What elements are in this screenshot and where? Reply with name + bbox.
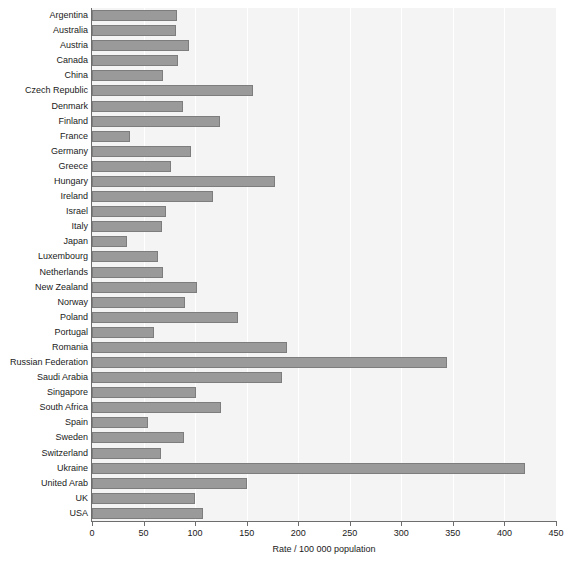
y-axis-tick-label: Argentina bbox=[0, 8, 88, 23]
gridline bbox=[556, 8, 557, 521]
bar-row bbox=[92, 415, 556, 430]
x-axis-tick bbox=[247, 521, 248, 526]
y-axis-tick-label: Switzerland bbox=[0, 446, 88, 461]
bar[interactable] bbox=[92, 10, 177, 21]
x-axis-tick-label: 450 bbox=[548, 528, 563, 538]
bar[interactable] bbox=[92, 116, 220, 127]
bar[interactable] bbox=[92, 161, 171, 172]
y-axis-tick-label: Italy bbox=[0, 219, 88, 234]
y-axis-tick-label: Poland bbox=[0, 310, 88, 325]
y-axis-tick-label: Norway bbox=[0, 295, 88, 310]
bar[interactable] bbox=[92, 432, 184, 443]
bar[interactable] bbox=[92, 70, 163, 81]
x-axis-tick-label: 0 bbox=[89, 528, 94, 538]
bar[interactable] bbox=[92, 478, 247, 489]
bar-row bbox=[92, 461, 556, 476]
bar[interactable] bbox=[92, 236, 127, 247]
x-axis-tick bbox=[144, 521, 145, 526]
x-axis-tick bbox=[556, 521, 557, 526]
bar-row bbox=[92, 491, 556, 506]
y-axis-tick-label: New Zealand bbox=[0, 280, 88, 295]
y-axis-tick-label: Spain bbox=[0, 415, 88, 430]
y-axis-tick-label: Portugal bbox=[0, 325, 88, 340]
y-axis-tick-label: Czech Republic bbox=[0, 83, 88, 98]
bar-row bbox=[92, 159, 556, 174]
bar[interactable] bbox=[92, 282, 197, 293]
bar-row bbox=[92, 144, 556, 159]
bar[interactable] bbox=[92, 176, 275, 187]
bar-row bbox=[92, 38, 556, 53]
y-axis-tick-label: Israel bbox=[0, 204, 88, 219]
bar[interactable] bbox=[92, 221, 162, 232]
x-axis-tick-label: 250 bbox=[342, 528, 357, 538]
bar[interactable] bbox=[92, 131, 130, 142]
y-axis-tick-label: Russian Federation bbox=[0, 355, 88, 370]
bar-row bbox=[92, 385, 556, 400]
bar[interactable] bbox=[92, 85, 253, 96]
bar-row bbox=[92, 370, 556, 385]
y-axis-tick-label: France bbox=[0, 129, 88, 144]
y-axis-tick-label: Japan bbox=[0, 234, 88, 249]
x-axis-tick bbox=[92, 521, 93, 526]
bar-row bbox=[92, 174, 556, 189]
bar[interactable] bbox=[92, 327, 154, 338]
bar[interactable] bbox=[92, 40, 189, 51]
y-axis-tick-label: Ukraine bbox=[0, 461, 88, 476]
y-axis-tick-label: Saudi Arabia bbox=[0, 370, 88, 385]
bar[interactable] bbox=[92, 267, 163, 278]
bar[interactable] bbox=[92, 372, 282, 383]
y-axis-tick-label: Australia bbox=[0, 23, 88, 38]
bar[interactable] bbox=[92, 101, 183, 112]
bar-row bbox=[92, 219, 556, 234]
bar-row bbox=[92, 99, 556, 114]
bar-row bbox=[92, 265, 556, 280]
bar[interactable] bbox=[92, 463, 525, 474]
bar[interactable] bbox=[92, 357, 447, 368]
bar-row bbox=[92, 295, 556, 310]
bar-row bbox=[92, 53, 556, 68]
y-axis-tick-label: UK bbox=[0, 491, 88, 506]
bar-row bbox=[92, 506, 556, 521]
bar[interactable] bbox=[92, 191, 213, 202]
x-axis-line bbox=[91, 521, 557, 522]
bar-row bbox=[92, 129, 556, 144]
y-axis-tick-label: United Arab bbox=[0, 476, 88, 491]
y-axis-tick-label: Germany bbox=[0, 144, 88, 159]
bar-row bbox=[92, 68, 556, 83]
bar[interactable] bbox=[92, 297, 185, 308]
bar[interactable] bbox=[92, 387, 196, 398]
bar-row bbox=[92, 249, 556, 264]
bar[interactable] bbox=[92, 448, 161, 459]
y-axis-tick-label: USA bbox=[0, 506, 88, 521]
bar[interactable] bbox=[92, 206, 166, 217]
y-axis-tick-label: Austria bbox=[0, 38, 88, 53]
y-axis-tick-label: Denmark bbox=[0, 99, 88, 114]
bar-row bbox=[92, 340, 556, 355]
x-axis-tick bbox=[350, 521, 351, 526]
y-axis-tick-label: South Africa bbox=[0, 400, 88, 415]
x-axis-tick-label: 100 bbox=[188, 528, 203, 538]
bar-row bbox=[92, 310, 556, 325]
bar-row bbox=[92, 476, 556, 491]
bar[interactable] bbox=[92, 25, 176, 36]
bar[interactable] bbox=[92, 251, 158, 262]
x-axis-tick-label: 200 bbox=[291, 528, 306, 538]
x-axis-tick-label: 50 bbox=[139, 528, 149, 538]
bar[interactable] bbox=[92, 493, 195, 504]
y-axis-tick-label: Canada bbox=[0, 53, 88, 68]
y-axis-tick-label: Hungary bbox=[0, 174, 88, 189]
bar[interactable] bbox=[92, 402, 221, 413]
y-axis-tick-label: Ireland bbox=[0, 189, 88, 204]
bar[interactable] bbox=[92, 312, 238, 323]
bar-chart: ArgentinaAustraliaAustriaCanadaChinaCzec… bbox=[0, 0, 579, 566]
bar[interactable] bbox=[92, 342, 287, 353]
y-axis-tick-labels: ArgentinaAustraliaAustriaCanadaChinaCzec… bbox=[0, 8, 88, 521]
y-axis-tick-label: China bbox=[0, 68, 88, 83]
bar[interactable] bbox=[92, 146, 191, 157]
x-axis-tick bbox=[195, 521, 196, 526]
bar[interactable] bbox=[92, 417, 148, 428]
y-axis-tick-label: Singapore bbox=[0, 385, 88, 400]
x-axis-tick bbox=[504, 521, 505, 526]
bar[interactable] bbox=[92, 55, 178, 66]
bar[interactable] bbox=[92, 508, 203, 519]
